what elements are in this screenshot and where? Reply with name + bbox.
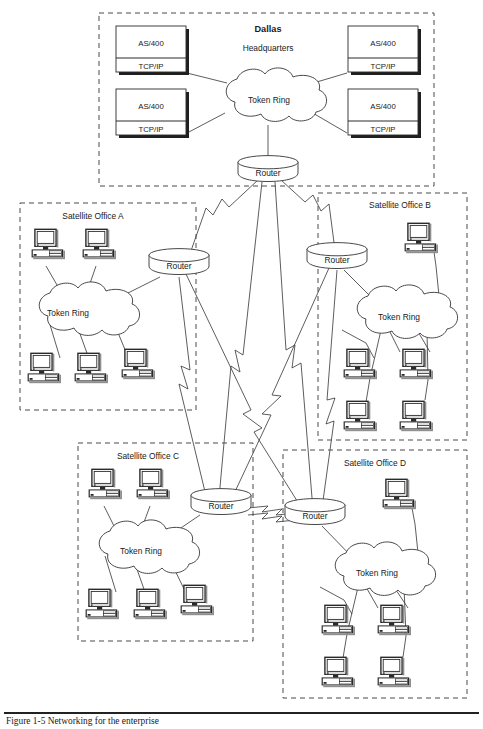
- router-office-b: Router: [307, 243, 367, 269]
- router-label: Router: [255, 168, 280, 178]
- host-as400-bottom-right: AS/400 TCP/IP: [348, 89, 421, 138]
- zone-title-office-d: Satellite Office D: [344, 458, 406, 468]
- host-name: AS/400: [370, 102, 396, 111]
- zone-title-office-c: Satellite Office C: [117, 451, 179, 461]
- cloud-label: Token Ring: [378, 312, 420, 322]
- host-protocol: TCP/IP: [370, 62, 395, 71]
- network-topology-diagram: Dallas Headquarters AS/400 TCP/IP AS/400…: [0, 0, 483, 729]
- figure-caption: Figure 1-5 Networking for the enterprise: [6, 716, 159, 726]
- zone-title-dallas: Dallas: [254, 24, 281, 34]
- zone-title-office-b: Satellite Office B: [369, 200, 431, 210]
- figure-caption-clip: Figure 1-5 Networking for the enterprise: [0, 716, 483, 729]
- router-label: Router: [208, 501, 233, 511]
- zone-title-office-a: Satellite Office A: [62, 211, 124, 221]
- host-name: AS/400: [138, 39, 164, 48]
- cloud-label: Token Ring: [356, 568, 398, 578]
- zone-subtitle-dallas: Headquarters: [243, 43, 294, 53]
- cloud-label: Token Ring: [120, 546, 162, 556]
- host-protocol: TCP/IP: [370, 125, 395, 134]
- router-office-c: Router: [191, 489, 251, 515]
- host-protocol: TCP/IP: [138, 125, 163, 134]
- router-label: Router: [166, 261, 191, 271]
- host-as400-top-right: AS/400 TCP/IP: [348, 26, 421, 75]
- figure-page: Dallas Headquarters AS/400 TCP/IP AS/400…: [0, 0, 483, 729]
- router-office-d: Router: [285, 499, 345, 525]
- host-protocol: TCP/IP: [138, 62, 163, 71]
- router-dallas: Router: [238, 156, 298, 182]
- cloud-label: Token Ring: [248, 95, 290, 105]
- host-name: AS/400: [370, 39, 396, 48]
- host-as400-bottom-left: AS/400 TCP/IP: [116, 89, 189, 138]
- router-label: Router: [302, 511, 327, 521]
- cloud-label: Token Ring: [47, 308, 89, 318]
- host-as400-top-left: AS/400 TCP/IP: [116, 26, 189, 75]
- router-label: Router: [324, 255, 349, 265]
- host-name: AS/400: [138, 102, 164, 111]
- router-office-a: Router: [149, 249, 209, 275]
